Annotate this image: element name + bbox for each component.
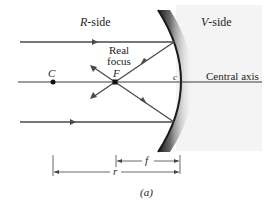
arrow-icon [92, 39, 98, 45]
focal-length-label: f [145, 155, 148, 166]
r-side-suffix: -side [87, 15, 110, 29]
reflected-ray-bottom [93, 67, 174, 122]
central-axis-label: Central axis [206, 71, 259, 82]
center-point-marker [51, 80, 56, 85]
figure-caption: (a) [140, 187, 153, 198]
r-side-label: R-side [80, 16, 111, 28]
focus-point-marker [113, 80, 118, 85]
diagram-canvas [0, 0, 276, 206]
arrow-icon [54, 170, 59, 174]
v-side-label: V-side [201, 16, 232, 28]
v-side-suffix: -side [208, 15, 231, 29]
arrow-icon [117, 159, 122, 163]
real-focus-label: Real focus [103, 45, 135, 67]
radius-label: r [113, 166, 117, 177]
arrow-icon [140, 97, 147, 104]
concave-mirror-diagram: R-side V-side Real focus F C c Central a… [0, 0, 276, 206]
center-point-label: C [48, 68, 55, 79]
mirror-center-label: c [173, 73, 177, 82]
arrow-icon [70, 119, 76, 125]
focus-point-label: F [113, 68, 120, 79]
real-focus-line2: focus [103, 56, 135, 67]
arrow-icon [174, 159, 179, 163]
arrow-icon [174, 170, 179, 174]
